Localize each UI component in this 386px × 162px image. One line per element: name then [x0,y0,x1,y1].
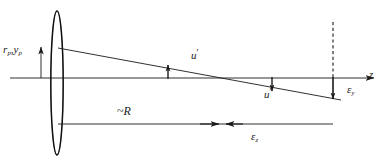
label-epsilon-z-text: εz [251,130,258,142]
label-epsilon-y: εy [347,84,355,97]
diagram-canvas [0,0,386,162]
label-angle-lower: u′ [264,88,272,100]
label-ray-height: rp,yp [3,44,22,57]
marginal-ray [58,48,341,100]
thin-lens [51,11,63,155]
label-epsilon-z: εz [251,131,258,144]
label-axis-z: z [369,69,373,80]
label-ray-height-text: rp,yp [3,43,22,55]
label-radius-text: ~R [117,104,131,118]
label-radius: ~R [117,105,131,117]
label-angle-lower-text: u′ [264,88,272,100]
optics-ray-diagram: rp,yp u′ u′ εy εz ~R z [0,0,386,162]
label-angle-upper: u′ [191,49,199,61]
label-axis-z-text: z [369,68,373,80]
label-epsilon-y-text: εy [347,83,355,95]
label-angle-upper-text: u′ [191,49,199,61]
